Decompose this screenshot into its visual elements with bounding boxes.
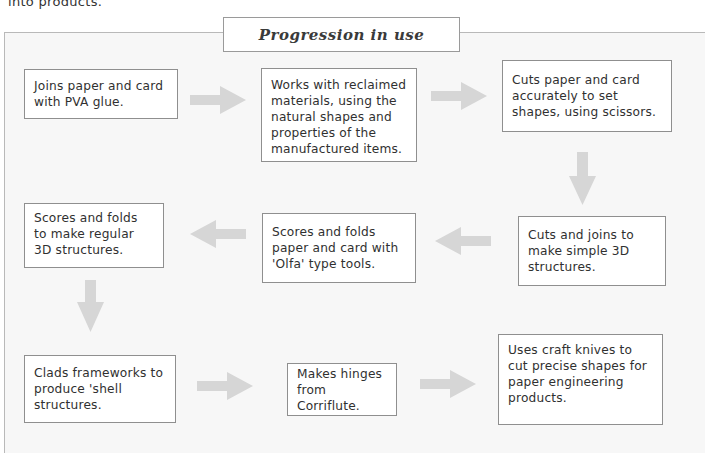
step-box-4: Cuts and joins to make simple 3D structu…	[518, 216, 666, 286]
step-box-6: Scores and folds to make regular 3D stru…	[24, 203, 164, 268]
step-box-7: Clads frameworks to produce 'shell struc…	[24, 355, 176, 423]
step-box-2: Works with reclaimed materials, using th…	[261, 68, 417, 162]
arrow-down-icon	[77, 280, 105, 335]
step-box-9: Uses craft knives to cut precise shapes …	[498, 334, 663, 425]
title-box: Progression in use	[223, 17, 460, 52]
step-box-1: Joins paper and card with PVA glue.	[24, 69, 178, 119]
arrow-right-icon	[197, 370, 257, 402]
diagram-title: Progression in use	[259, 26, 425, 44]
arrow-right-icon	[431, 80, 491, 112]
intro-text: into products.	[8, 0, 102, 9]
arrow-down-icon	[569, 152, 597, 207]
arrow-right-icon	[420, 368, 480, 400]
step-box-5: Scores and folds paper and card with 'Ol…	[262, 213, 416, 283]
arrow-left-icon	[433, 225, 493, 257]
arrow-right-icon	[190, 84, 250, 116]
step-box-3: Cuts paper and card accurately to set sh…	[502, 60, 672, 132]
arrow-left-icon	[188, 218, 248, 250]
step-box-8: Makes hinges from Corriflute.	[287, 363, 397, 416]
